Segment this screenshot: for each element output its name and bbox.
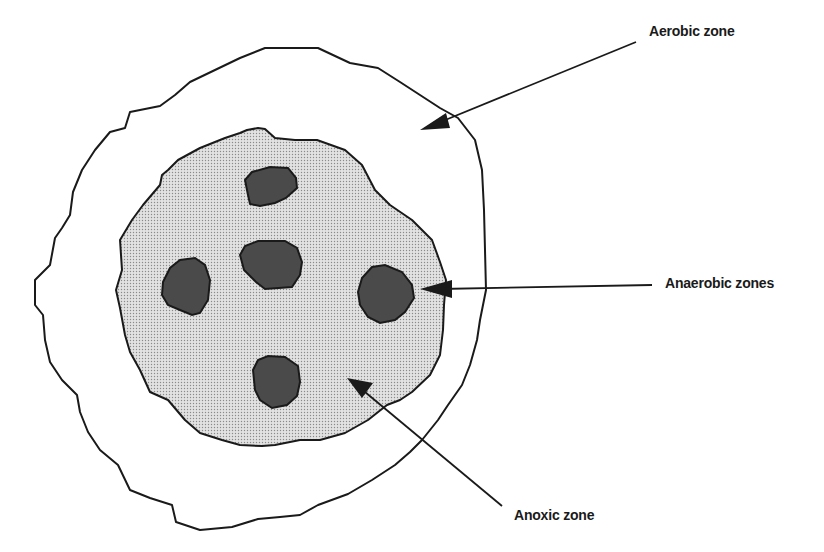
aerobic-arrow xyxy=(420,42,636,130)
anaerobic-zones-label: Anaerobic zones xyxy=(665,275,774,291)
aerobic-zone-label: Aerobic zone xyxy=(649,23,735,39)
anoxic-zone-label: Anoxic zone xyxy=(514,507,594,523)
anaerobic-zone-bottom xyxy=(253,356,300,408)
